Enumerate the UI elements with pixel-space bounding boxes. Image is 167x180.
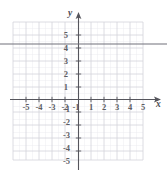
y-tick-label-minus-2: -2 <box>63 118 70 127</box>
y-tick-label-minus-4: -4 <box>63 144 70 153</box>
x-tick-label-minus-2: -2 <box>61 103 68 112</box>
y-axis-label: y <box>68 9 72 19</box>
y-axis <box>76 12 82 170</box>
x-tick-label-2: 2 <box>102 103 106 112</box>
x-tick-label-3: 3 <box>115 103 119 112</box>
graph-canvas <box>0 0 167 180</box>
y-tick-label-1: 1 <box>64 83 68 92</box>
coordinate-plane-figure: 5 4 3 2 1 -1 -2 -3 -4 -5 -5 -4 -3 -2 -1 … <box>0 0 167 180</box>
x-tick-label-4: 4 <box>128 103 132 112</box>
x-tick-label-1: 1 <box>89 103 93 112</box>
y-tick-label-4: 4 <box>64 44 68 53</box>
y-tick-label-minus-5: -5 <box>63 157 70 166</box>
x-tick-label-5: 5 <box>141 103 145 112</box>
x-tick-label-minus-3: -3 <box>48 103 55 112</box>
y-tick-label-2: 2 <box>64 70 68 79</box>
y-tick-label-minus-3: -3 <box>63 131 70 140</box>
x-axis-label: x <box>156 100 161 110</box>
x-tick-label-minus-5: -5 <box>22 103 29 112</box>
x-tick-label-minus-1: -1 <box>72 103 79 112</box>
y-tick-label-3: 3 <box>64 57 68 66</box>
x-tick-label-minus-4: -4 <box>35 103 42 112</box>
y-tick-label-5: 5 <box>64 31 68 40</box>
